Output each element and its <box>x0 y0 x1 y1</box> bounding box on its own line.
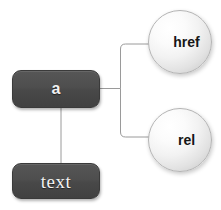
node-a[interactable]: a <box>12 70 100 108</box>
edge-a-to-href <box>121 44 153 89</box>
edge-a-to-rel <box>121 89 153 138</box>
node-rel-label: rel <box>165 133 195 147</box>
node-href-label: href <box>160 35 199 49</box>
node-text-label: text <box>41 172 72 191</box>
node-rel[interactable]: rel <box>148 108 212 172</box>
node-href[interactable]: href <box>148 10 212 74</box>
node-a-label: a <box>52 81 61 97</box>
diagram-canvas: a text href rel <box>0 0 221 210</box>
node-text[interactable]: text <box>12 163 100 199</box>
